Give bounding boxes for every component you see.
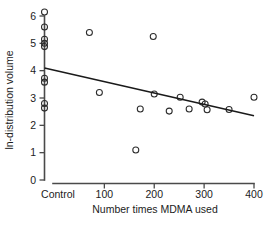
data-point-marker xyxy=(204,107,210,113)
y-axis-group: 0123456 xyxy=(30,10,44,186)
y-tick-labels: 0123456 xyxy=(30,10,36,186)
x-axis-group: Control100200300400 xyxy=(41,184,263,201)
y-tick-label: 4 xyxy=(30,64,36,76)
scatter-plot-figure: 0123456 Control100200300400 Number times… xyxy=(0,0,267,231)
y-tick-label: 3 xyxy=(30,92,36,104)
x-tick-label: 300 xyxy=(195,188,213,200)
x-axis-title: Number times MDMA used xyxy=(92,203,218,215)
series-mdma-points xyxy=(86,29,257,153)
data-point-marker xyxy=(96,90,102,96)
plot-canvas: 0123456 Control100200300400 Number times… xyxy=(0,0,267,231)
data-point-marker xyxy=(186,106,192,112)
y-tick-label: 0 xyxy=(30,174,36,186)
data-point-marker xyxy=(166,108,172,114)
data-point-marker xyxy=(251,94,257,100)
y-tick-label: 1 xyxy=(30,146,36,158)
data-point-marker xyxy=(86,29,92,35)
y-tick-label: 2 xyxy=(30,119,36,131)
x-tick-label: Control xyxy=(41,188,75,200)
data-point-marker xyxy=(137,106,143,112)
data-point-marker xyxy=(133,147,139,153)
x-tick-labels: Control100200300400 xyxy=(41,188,263,200)
regression-trend-line xyxy=(45,68,255,116)
y-tick-label: 6 xyxy=(30,10,36,22)
data-point-marker xyxy=(42,9,48,15)
x-tick-label: 200 xyxy=(145,188,163,200)
y-tick-label: 5 xyxy=(30,37,36,49)
data-point-marker xyxy=(150,34,156,40)
y-axis-title: ln-distribution volume xyxy=(3,50,15,149)
x-tick-label: 400 xyxy=(245,188,263,200)
x-tick-label: 100 xyxy=(96,188,114,200)
